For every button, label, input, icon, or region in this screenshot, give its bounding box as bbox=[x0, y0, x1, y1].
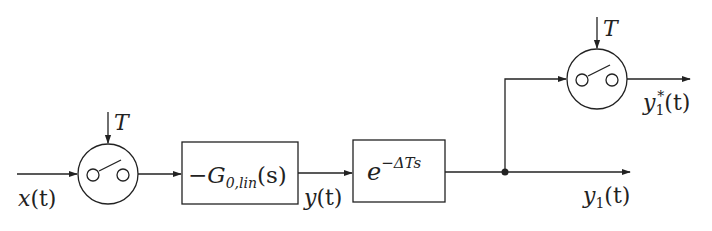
switch-lever-icon bbox=[588, 65, 610, 76]
switch-lever-icon bbox=[99, 160, 121, 171]
delay-block: e−ΔTs bbox=[353, 140, 445, 202]
switch-contact-icon bbox=[87, 169, 99, 181]
plant-transfer-function: −G0,lin(s) bbox=[188, 162, 287, 191]
sampler-2-period-label: T bbox=[603, 16, 620, 41]
switch-contact-icon bbox=[606, 74, 618, 86]
sampler-1: T bbox=[78, 110, 138, 204]
output-label: y1(t) bbox=[582, 183, 630, 211]
plant-block: −G0,lin(s) bbox=[182, 142, 298, 204]
sampled-output-label: y1*(t) bbox=[642, 88, 690, 118]
switch-contact-icon bbox=[576, 74, 588, 86]
input-label: x(t) bbox=[18, 186, 56, 211]
delay-transfer-function: e−ΔTs bbox=[367, 154, 422, 186]
switch-contact-icon bbox=[117, 169, 129, 181]
branch-arrow bbox=[505, 79, 566, 172]
block-diagram: x(t) T −G0,lin(s) y(t) e−ΔTs y1(t) T bbox=[0, 0, 712, 231]
sampler-1-period-label: T bbox=[114, 110, 131, 135]
sampler-2: T bbox=[567, 16, 627, 109]
intermediate-signal-label: y(t) bbox=[303, 185, 342, 210]
